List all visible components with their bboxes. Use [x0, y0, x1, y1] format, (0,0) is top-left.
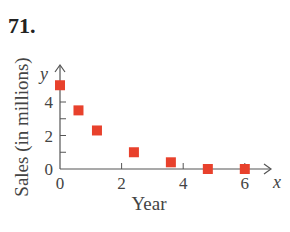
data-point — [240, 164, 250, 174]
data-point — [129, 147, 139, 157]
x-axis-symbol: x — [272, 172, 281, 192]
data-point — [166, 157, 176, 167]
x-tick-label: 6 — [241, 174, 250, 193]
x-tick-label: 2 — [117, 174, 126, 193]
y-tick-label: 4 — [45, 93, 54, 112]
x-tick-label: 0 — [56, 174, 65, 193]
data-point — [55, 80, 65, 90]
data-point — [73, 105, 83, 115]
data-points — [55, 80, 250, 174]
scatter-plot: xy0246024 — [0, 0, 290, 232]
y-tick-label: 2 — [45, 127, 54, 146]
y-axis-symbol: y — [38, 64, 48, 84]
data-point — [92, 125, 102, 135]
data-point — [203, 164, 213, 174]
x-tick-label: 4 — [179, 174, 188, 193]
y-tick-label: 0 — [45, 160, 54, 179]
